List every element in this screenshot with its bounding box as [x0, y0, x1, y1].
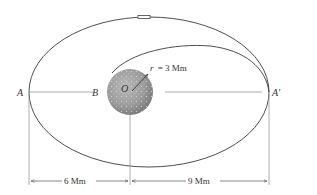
radius-label: r = 3 Mm	[150, 63, 187, 73]
label-A: A	[16, 87, 24, 98]
dimension-label-right: 9 Mm	[188, 176, 210, 186]
label-B: B	[92, 87, 98, 98]
label-O: O	[121, 83, 128, 94]
spacecraft-icon	[138, 16, 150, 19]
label-A-prime: A'	[271, 87, 281, 98]
radius-value: = 3 Mm	[158, 63, 187, 73]
radius-var: r	[150, 63, 154, 73]
orbit-diagram: A B O A' r = 3 Mm 6 Mm 9 Mm	[0, 0, 317, 195]
dimension-label-left: 6 Mm	[64, 176, 86, 186]
